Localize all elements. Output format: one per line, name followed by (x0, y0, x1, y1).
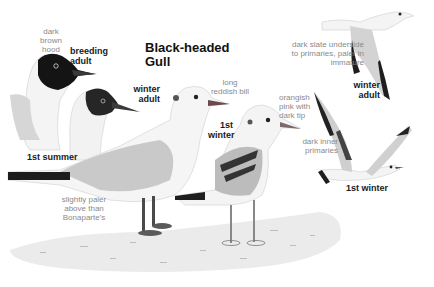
bill-tip-note: orangish pink with dark tip (279, 93, 310, 120)
title-line-1: Black-headed (145, 41, 230, 55)
gull-plate: Black-headed Gull dark brown hood breedi… (0, 0, 434, 287)
bill-note: long reddish bill (205, 78, 255, 96)
winter-adult-standing-label: winter adult (128, 84, 160, 104)
inner-primaries-note: dark inner primaries (300, 137, 338, 155)
winter-adult-flying-label: winter adult (350, 80, 380, 100)
plate-title: Black-headed Gull (145, 41, 230, 69)
title-line-2: Gull (145, 55, 230, 69)
paler-note: slightly paler above than Bonaparte's (58, 195, 110, 222)
first-summer-label: 1st summer (27, 152, 78, 162)
first-winter-flying-label: 1st winter (346, 183, 388, 193)
first-winter-standing-label: 1st winter (208, 120, 233, 140)
hood-note: dark brown hood (36, 27, 66, 54)
breeding-adult-label: breeding adult (70, 46, 108, 66)
underside-note: dark slate underside to primaries, paler… (272, 40, 364, 67)
